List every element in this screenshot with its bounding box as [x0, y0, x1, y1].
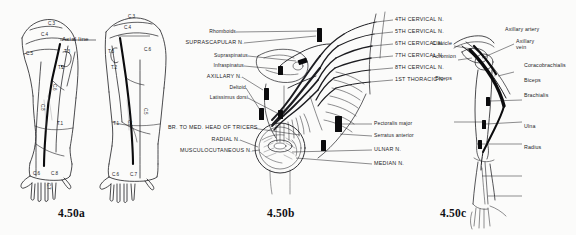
dermatome-label: T.3 [108, 50, 114, 55]
dermatome-label: C.7 [45, 183, 50, 189]
label-ulna: Ulna [524, 124, 536, 129]
label-branch-medial-head-triceps: BR. TO MED. HEAD OF TRICEPS [168, 125, 252, 130]
dermatome-label: C.8 [126, 120, 131, 126]
dermatome-label: T.2 [111, 66, 117, 71]
label-pectoralis-major: Pectoralis major [374, 121, 412, 126]
caption-4-50a: 4.50a [58, 207, 85, 219]
dermatome-label: T.3 [64, 50, 70, 55]
dermatome-label: C.5 [142, 108, 147, 114]
dermatome-label: C.4 [41, 33, 48, 38]
label-rhomboids: Rhomboids [180, 29, 236, 34]
label-supraspinatus: Supraspinatus [180, 53, 248, 58]
dermatome-label: C.6 [144, 48, 151, 53]
dermatome-label: C.6 [33, 172, 40, 177]
dermatome-label: C.8 [51, 172, 58, 177]
leader-lines [454, 44, 522, 196]
label-musculocutaneous-nerve: MUSCULOCUTANEOUS N. [170, 148, 252, 153]
label-radius: Radius [524, 145, 541, 150]
label-radial-nerve: RADIAL N. [180, 137, 240, 142]
panel-4-50b: Rhomboids SUPRASCAPULAR N. Supraspinatus… [180, 0, 410, 235]
dermatome-label: C.3 [48, 22, 55, 27]
dermatome-label: C.6 [112, 173, 119, 178]
figure-page: Axial line C.3 C.4 C.5 T.3 T.2 C.6 C.8 T… [0, 0, 576, 235]
label-clavicle: Clavicle [410, 41, 452, 46]
dermatome-label: T.1 [57, 122, 63, 127]
dermatome-label: C.4 [124, 26, 131, 31]
label-serratus-anterior: Serratus anterior [374, 133, 414, 138]
label-median-nerve: MEDIAN N. [374, 161, 404, 166]
label-coracobrachialis: Coracobrachialis [524, 63, 566, 68]
label-axillary-nerve: AXILLARY N. [180, 74, 242, 79]
caption-4-50c: 4.50c [440, 207, 466, 219]
dermatome-label: C.7 [130, 173, 137, 178]
panel-4-50a: Axial line C.3 C.4 C.5 T.3 T.2 C.6 C.8 T… [0, 0, 192, 235]
dermatome-diagram [0, 0, 192, 205]
label-biceps-right: Biceps [524, 78, 541, 83]
dermatome-label: C.5 [26, 52, 33, 57]
dermatome-label: C.8 [39, 104, 44, 110]
dermatome-label: C.6 [51, 84, 56, 90]
label-infraspinatus: Infraspinatus [180, 63, 244, 68]
label-deltoid: Deltoid [180, 85, 246, 90]
dermatome-label: C.3 [128, 15, 135, 20]
label-axillary-vein: Axillary vein [516, 38, 546, 50]
label-biceps-left: Biceps [410, 76, 452, 81]
label-axillary-artery: Axillary artery [505, 27, 539, 32]
panel-4-50c: Axillary artery Axillary vein Coracobrac… [410, 0, 576, 235]
label-acromion: Acromion [410, 54, 456, 59]
label-latissimus-dorsi: Latissimus dorsi [180, 95, 248, 100]
label-ulnar-nerve: ULNAR N. [374, 147, 401, 152]
caption-4-50b: 4.50b [267, 207, 295, 219]
nerve-marker [259, 28, 342, 151]
axillary-vessels-diagram [410, 0, 576, 205]
label-axial-line: Axial line [62, 36, 89, 42]
dermatome-label: T.1 [113, 122, 119, 127]
label-brachialis: Brachialis [524, 93, 548, 98]
label-suprascapular-nerve: SUPRASCAPULAR N. [180, 40, 244, 45]
dermatome-label: T.2 [58, 66, 64, 71]
leader-lines-left [236, 31, 318, 151]
